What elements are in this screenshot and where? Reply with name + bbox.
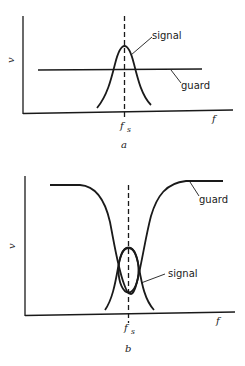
- panel-b-y-axis-label: v: [6, 243, 17, 249]
- panel-b-x-axis: [25, 312, 235, 316]
- panel-b-fs-label: f s: [123, 322, 135, 336]
- panel-b-guard-label: guard: [199, 194, 228, 205]
- panel-a-signal-label: signal: [152, 30, 182, 41]
- panel-a-x-axis-label: f: [211, 113, 218, 124]
- panel-a-fs-main: f: [119, 120, 126, 131]
- panel-a-caption: a: [121, 139, 127, 150]
- panel-a-fs-subscript: s: [127, 125, 131, 134]
- panel-a-y-axis-label: v: [5, 57, 16, 63]
- panel-b-caption: b: [125, 343, 131, 354]
- panel-a-guard-label: guard: [181, 80, 210, 91]
- panel-a-guard-curve: [38, 69, 202, 70]
- panel-a-fs-label: f s: [119, 120, 131, 134]
- panel-b-fs-subscript: s: [131, 327, 135, 336]
- panel-b-signal-label: signal: [168, 268, 198, 279]
- panel-a-x-axis: [23, 110, 233, 114]
- panel-a-signal-leader: [131, 37, 152, 55]
- panel-a-guard-leader: [171, 70, 181, 83]
- panel-b-signal-leader: [141, 274, 165, 283]
- panel-b-guard-leader: [190, 182, 199, 196]
- panel-b: guard signal v f f s b: [6, 176, 235, 354]
- diagram-canvas: signal guard v f f s a guard signal v f …: [0, 0, 245, 366]
- panel-b-fs-main: f: [123, 322, 130, 333]
- panel-b-signal-curve: [105, 248, 154, 310]
- panel-a: signal guard v f f s a: [5, 16, 233, 150]
- panel-b-x-axis-label: f: [215, 315, 222, 326]
